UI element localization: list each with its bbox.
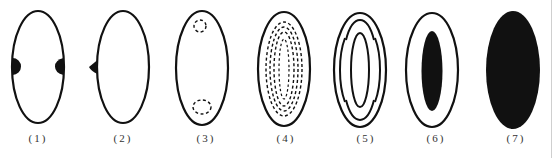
cell-outline [176, 11, 228, 125]
panel-label: (1) [29, 132, 48, 145]
filled-inner-ellipse [422, 31, 443, 111]
cell-outline [334, 13, 386, 127]
left-bump-icon [89, 60, 98, 74]
upper-arc [346, 20, 374, 40]
panel-3: (3) [176, 11, 228, 145]
right-bump-icon [55, 58, 64, 75]
panel-label: (7) [507, 132, 526, 145]
inner-ellipse [351, 33, 369, 107]
right-arc [375, 38, 380, 102]
bottom-dashed-ring [193, 100, 211, 114]
dashed-ring-1 [266, 22, 302, 116]
dashed-ring-3 [274, 32, 294, 106]
panel-label: (3) [197, 132, 216, 145]
panel-1: (1) [12, 11, 64, 145]
panel-label: (2) [114, 132, 133, 145]
lower-arc [346, 100, 374, 120]
filled-cell [486, 11, 540, 129]
top-dashed-ring [194, 20, 206, 32]
dashed-ring-4 [279, 39, 289, 99]
panel-4: (4) [258, 12, 310, 145]
cell-outline [97, 11, 149, 123]
panel-5: (5) [334, 13, 386, 145]
cell-stages-diagram: (1) (2) (3) (4) (5) (6) [0, 0, 555, 158]
panel-2: (2) [89, 11, 149, 145]
left-bump-icon [13, 58, 22, 75]
panel-label: (5) [357, 132, 376, 145]
panel-label: (6) [427, 132, 446, 145]
panel-7: (7) [486, 11, 540, 145]
panel-label: (4) [277, 132, 296, 145]
panel-6: (6) [406, 13, 458, 145]
left-arc [340, 38, 345, 102]
